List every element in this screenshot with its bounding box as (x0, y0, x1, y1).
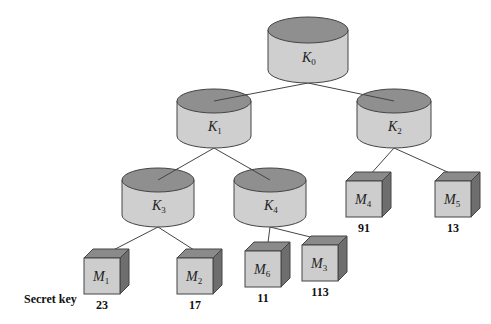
secret-key-value: 91 (358, 221, 370, 235)
secret-key-value: 11 (257, 291, 268, 305)
secret-key-value: 17 (189, 298, 201, 312)
key-node-k1: K1 (177, 89, 251, 148)
leaf-node-m3: M3113 (302, 236, 347, 299)
leaf-node-m6: M611 (245, 242, 290, 305)
key-node-k3: K3 (122, 168, 194, 227)
key-node-k4: K4 (234, 168, 306, 227)
leaf-node-m1: M123 (84, 249, 129, 312)
leaf-node-m4: M491 (346, 172, 391, 235)
key-node-k2: K2 (357, 89, 431, 148)
secret-key-row-label: Secret key (24, 292, 77, 306)
leaf-node-m2: M217 (177, 249, 222, 312)
secret-key-value: 113 (311, 285, 328, 299)
key-node-k0: K0 (268, 17, 348, 83)
leaf-node-m5: M513 (435, 172, 480, 235)
secret-key-value: 13 (447, 221, 459, 235)
key-tree-diagram: K0K1K2K3K4 M123M217M611M3113M491M513 Sec… (0, 0, 491, 324)
secret-key-value: 23 (96, 298, 108, 312)
